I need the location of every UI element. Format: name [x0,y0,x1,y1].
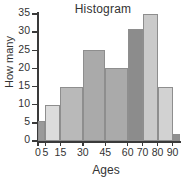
y-axis-label: How many [3,32,15,92]
x-tick-label: 0 [35,146,41,159]
histogram-bar [143,14,158,141]
y-tick-label: 15 [18,79,30,92]
x-tick-label: 80 [152,146,164,159]
histogram-chart: Histogram How many 05101520253035 051530… [0,0,183,181]
x-axis-label: Ages [36,163,176,177]
y-tick-label: 10 [18,97,30,110]
x-tick-label: 5 [43,146,49,159]
x-tick-label: 60 [122,146,134,159]
y-tick-label: 5 [24,115,30,128]
histogram-bar [38,121,45,141]
x-tick-label: 90 [167,146,179,159]
histogram-bar [45,105,60,141]
plot-area [38,14,180,141]
y-tick-label: 0 [24,133,30,146]
y-tick-label: 35 [18,6,30,19]
histogram-bar [173,134,180,141]
histogram-bar [83,50,105,141]
x-tick-label: 15 [55,146,67,159]
histogram-bar [158,87,173,141]
x-tick-label: 45 [99,146,111,159]
x-axis-line [37,141,181,143]
histogram-bar [128,29,143,141]
y-tick-label: 25 [18,43,30,56]
histogram-bar [60,87,82,141]
x-tick-label: 30 [77,146,89,159]
y-tick-label: 30 [18,24,30,37]
histogram-bar [105,68,127,141]
y-tick-label: 20 [18,61,30,74]
x-tick-label: 70 [137,146,149,159]
